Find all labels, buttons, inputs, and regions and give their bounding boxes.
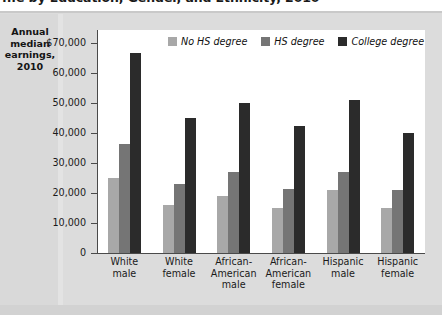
bar [294, 126, 305, 254]
bar-series-container [97, 30, 425, 253]
y-axis-tick [91, 73, 98, 74]
x-axis-category-label: Whitemale [97, 256, 152, 279]
y-axis-tick-label: 40,000 [24, 127, 86, 138]
bar-group [217, 30, 250, 253]
category-label-line: White [152, 256, 207, 268]
bar [272, 208, 283, 253]
y-axis-tick [91, 103, 98, 104]
bar [349, 100, 360, 253]
bar-group [381, 30, 414, 253]
bar [130, 53, 141, 253]
bar [185, 118, 196, 253]
x-axis-category-label: Hispanicmale [316, 256, 371, 279]
bar [228, 172, 239, 253]
category-label-line: male [206, 279, 261, 291]
category-label-line: African- [261, 256, 316, 268]
category-label-line: male [97, 268, 152, 280]
y-axis-tick-label: 50,000 [24, 97, 86, 108]
bar-group [108, 30, 141, 253]
category-label-line: White [97, 256, 152, 268]
bar [163, 205, 174, 253]
category-label-line: female [152, 268, 207, 280]
category-label-line: American [261, 268, 316, 280]
category-label-line: Hispanic [370, 256, 425, 268]
bar [283, 189, 294, 254]
y-axis-tick-label: 0 [24, 247, 86, 258]
y-axis-tick [91, 223, 98, 224]
bar [381, 208, 392, 253]
bar [327, 190, 338, 253]
y-axis-tick-label: 10,000 [24, 217, 86, 228]
bar-group [327, 30, 360, 253]
bar [174, 184, 185, 253]
bar [338, 172, 349, 253]
y-axis-tick [91, 193, 98, 194]
bar-group [272, 30, 305, 253]
y-axis-tick [91, 133, 98, 134]
category-label-line: African- [206, 256, 261, 268]
y-axis-labels: $70,00060,00050,00040,00030,00020,00010,… [22, 0, 86, 315]
bar [119, 144, 130, 253]
y-axis-tick-label: $70,000 [24, 37, 86, 48]
x-axis-category-label: Whitefemale [152, 256, 207, 279]
y-axis-tick-label: 20,000 [24, 187, 86, 198]
y-axis-tick-label: 60,000 [24, 67, 86, 78]
category-label-line: female [370, 268, 425, 280]
category-label-line: female [261, 279, 316, 291]
bar [392, 190, 403, 253]
bar [239, 103, 250, 253]
category-label-line: Hispanic [316, 256, 371, 268]
bar-group [163, 30, 196, 253]
category-label-line: American [206, 268, 261, 280]
y-axis-tick [91, 43, 98, 44]
y-axis-tick [91, 163, 98, 164]
x-axis-category-label: Hispanicfemale [370, 256, 425, 279]
page-bottom-strip [0, 305, 442, 315]
x-axis-category-label: African-Americanmale [206, 256, 261, 291]
bar [403, 133, 414, 253]
y-axis-tick [91, 253, 98, 254]
bar [108, 178, 119, 253]
category-label-line: male [316, 268, 371, 280]
y-axis-tick-label: 30,000 [24, 157, 86, 168]
x-axis-category-label: African-Americanfemale [261, 256, 316, 291]
x-axis-category-labels: WhitemaleWhitefemaleAfrican-Americanmale… [97, 256, 425, 312]
bar [217, 196, 228, 253]
